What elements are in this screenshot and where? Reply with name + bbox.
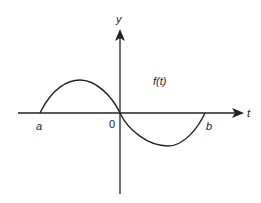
y-axis-label: y bbox=[116, 14, 122, 25]
curve-label: f(t) bbox=[153, 76, 166, 87]
x-axis-label: t bbox=[247, 108, 250, 119]
point-b-label: b bbox=[206, 121, 212, 132]
diagram-canvas bbox=[0, 0, 261, 203]
point-a-label: a bbox=[36, 121, 42, 132]
function-diagram: y t 0 a b f(t) bbox=[0, 0, 261, 203]
origin-label: 0 bbox=[109, 119, 115, 130]
